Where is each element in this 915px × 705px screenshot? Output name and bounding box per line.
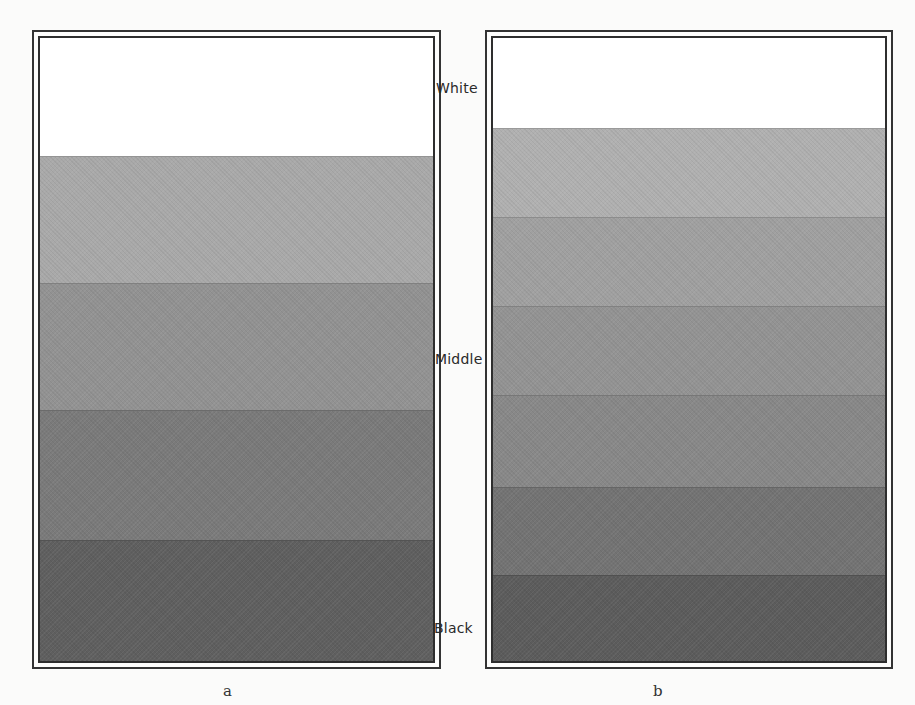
panel-b-band-white	[493, 38, 885, 128]
panel-b-band-gray-6	[493, 575, 885, 661]
label-white: White	[436, 80, 478, 96]
panel-b-band-gray-1	[493, 128, 885, 217]
panel-a-band-white	[40, 38, 433, 156]
label-middle: Middle	[435, 351, 482, 367]
panel-b-band-gray-3	[493, 306, 885, 395]
panel-a-band-black	[40, 540, 433, 661]
label-black: Black	[434, 620, 473, 636]
panel-a-band-middle-gray	[40, 283, 433, 410]
panel-b-band-gray-4	[493, 395, 885, 487]
panel-a-gray-scale	[38, 36, 435, 663]
panel-b-band-gray-2	[493, 217, 885, 306]
panel-a-band-dark-gray	[40, 410, 433, 540]
panel-b-gray-scale	[491, 36, 887, 663]
caption-b: b	[653, 682, 663, 700]
panel-b-band-gray-5	[493, 487, 885, 575]
caption-a: a	[223, 682, 232, 700]
panel-a-band-light-gray	[40, 156, 433, 283]
